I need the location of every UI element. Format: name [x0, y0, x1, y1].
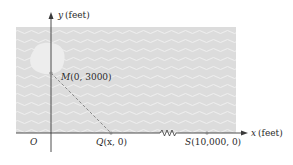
point-q-label: Q(x, 0)	[96, 137, 127, 147]
point-q	[109, 131, 112, 134]
island-shape	[30, 43, 65, 74]
origin-label: O	[30, 137, 38, 147]
x-axis-label: x(feet)	[251, 128, 283, 138]
point-m	[49, 71, 52, 74]
point-s-label: S(10,000, 0)	[185, 137, 241, 147]
y-axis-label: y(feet)	[57, 10, 90, 20]
point-s	[205, 131, 208, 134]
coastline-diagram: y(feet) x(feet) M(0, 3000) O Q(x, 0) S(1…	[0, 0, 293, 165]
point-m-label: M(0, 3000)	[60, 72, 112, 82]
